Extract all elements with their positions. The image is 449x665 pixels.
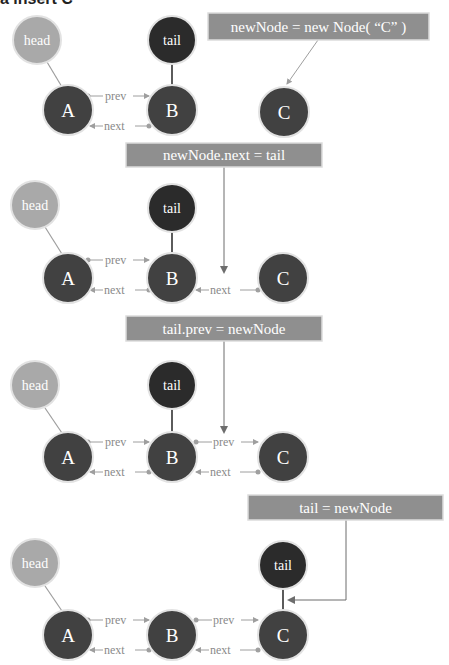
code-box-step-1: newNode = new Node( “C” )	[208, 13, 429, 40]
svg-text:C: C	[277, 625, 290, 646]
prev-link-a-b: prev	[86, 253, 150, 267]
svg-text:B: B	[166, 268, 179, 289]
node-c: C	[258, 253, 308, 303]
node-c: C	[258, 610, 308, 660]
svg-text:head: head	[22, 378, 48, 393]
svg-text:B: B	[166, 625, 179, 646]
head-node: head	[11, 539, 59, 587]
svg-text:prev: prev	[105, 613, 126, 627]
step-3-tail-prev: prev prev next next head tail	[11, 316, 322, 482]
svg-text:tail: tail	[274, 558, 292, 573]
svg-text:A: A	[61, 100, 75, 121]
svg-text:C: C	[277, 268, 290, 289]
code-box-step-2: newNode.next = tail	[126, 143, 322, 167]
tail-node: tail	[148, 361, 196, 409]
svg-text:next: next	[210, 283, 231, 297]
node-a: A	[43, 253, 93, 303]
code-box-step-4: tail = newNode	[248, 495, 443, 520]
svg-text:C: C	[278, 102, 291, 123]
step-4-tail-assign: prev prev next next head tail	[11, 495, 443, 660]
prev-link-a-b: prev	[86, 89, 150, 103]
svg-text:B: B	[166, 100, 179, 121]
svg-text:next: next	[210, 465, 231, 479]
svg-text:tail: tail	[163, 201, 181, 216]
head-to-a-link	[45, 586, 62, 611]
create-arrow	[287, 40, 318, 84]
svg-text:prev: prev	[105, 253, 126, 267]
head-to-a-link	[45, 227, 62, 254]
head-to-a-link	[47, 62, 62, 87]
next-link-b-a: next	[90, 465, 152, 479]
step-1-create-node: prev next head tail A B C	[13, 13, 429, 137]
node-b: B	[147, 85, 197, 135]
svg-text:head: head	[22, 198, 48, 213]
next-link-c-b: next	[196, 465, 261, 479]
prev-link-b-c: prev	[194, 613, 259, 627]
node-c: C	[259, 87, 309, 137]
tail-node: tail	[148, 16, 196, 64]
svg-text:newNode = new Node( “C” ): newNode = new Node( “C” )	[231, 19, 406, 36]
svg-text:B: B	[166, 447, 179, 468]
next-label: next	[104, 119, 125, 133]
svg-text:head: head	[22, 556, 48, 571]
next-link-b-a: next	[90, 283, 152, 297]
svg-text:C: C	[277, 447, 290, 468]
node-b: B	[147, 432, 197, 482]
svg-text:A: A	[61, 625, 75, 646]
next-link-c-b: next	[196, 643, 261, 657]
prev-link-b-c: prev	[194, 435, 259, 449]
tail-node: tail	[148, 184, 196, 232]
tail-node: tail	[259, 541, 307, 589]
svg-text:next: next	[104, 283, 125, 297]
svg-text:A: A	[61, 447, 75, 468]
svg-text:tail.prev = newNode: tail.prev = newNode	[162, 321, 285, 337]
svg-text:next: next	[210, 643, 231, 657]
prev-label: prev	[105, 89, 126, 103]
svg-text:tail: tail	[163, 378, 181, 393]
node-c: C	[258, 432, 308, 482]
svg-text:head: head	[24, 33, 50, 48]
prev-link-a-b: prev	[86, 435, 150, 449]
svg-text:prev: prev	[213, 435, 234, 449]
next-link-c-b: next	[196, 283, 261, 297]
svg-text:next: next	[104, 643, 125, 657]
head-node: head	[13, 16, 61, 64]
next-link-b-a: next	[90, 643, 152, 657]
head-to-a-link	[45, 408, 62, 433]
node-a: A	[43, 432, 93, 482]
node-a: A	[43, 85, 93, 135]
step-2-newnode-next: prev next next head tail A	[11, 143, 322, 303]
svg-text:next: next	[104, 465, 125, 479]
code-box-step-3: tail.prev = newNode	[126, 316, 322, 341]
node-a: A	[43, 610, 93, 660]
figure-title: a insert C	[0, 0, 73, 8]
svg-text:tail = newNode: tail = newNode	[299, 500, 392, 516]
prev-link-a-b: prev	[86, 613, 150, 627]
doubly-linked-list-insert-diagram: prev next head tail A B C	[0, 0, 449, 665]
node-b: B	[147, 610, 197, 660]
head-node: head	[11, 181, 59, 229]
svg-text:tail: tail	[163, 33, 181, 48]
head-node: head	[11, 361, 59, 409]
svg-text:A: A	[61, 268, 75, 289]
node-b: B	[147, 253, 197, 303]
svg-text:prev: prev	[105, 435, 126, 449]
svg-text:newNode.next = tail: newNode.next = tail	[163, 147, 285, 163]
next-link-b-a: next	[90, 119, 152, 133]
svg-text:prev: prev	[213, 613, 234, 627]
